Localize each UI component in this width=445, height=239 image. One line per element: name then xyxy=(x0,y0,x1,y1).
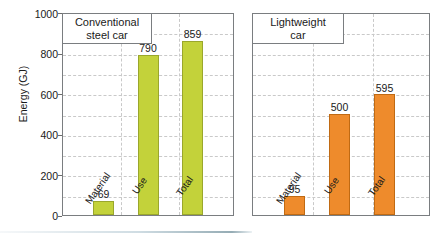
plot-area-left: 69 790 859 Material Use Total xyxy=(63,14,233,215)
panel-title-line2-right: car xyxy=(290,29,305,41)
chart-figure: Energy (GJ) 1000 800 600 400 200 0 xyxy=(0,0,445,239)
vgridline-1-left xyxy=(121,14,122,215)
panel-lightweight-car: 95 500 595 Material Use Total Lightweigh… xyxy=(252,13,430,216)
y-tick-800: 800 xyxy=(24,49,58,60)
panel-conventional-steel-car: 69 790 859 Material Use Total Convention… xyxy=(62,13,234,216)
y-tick-400: 400 xyxy=(24,130,58,141)
y-tick-200: 200 xyxy=(24,171,58,182)
panel-title-line2-left: steel car xyxy=(86,29,128,41)
y-tickmark-0 xyxy=(58,216,62,217)
bar-value-total-right: 595 xyxy=(366,83,403,94)
plot-area-right: 95 500 595 Material Use Total xyxy=(253,14,429,215)
gridline-600-right xyxy=(253,95,429,96)
bar-value-use-left: 790 xyxy=(130,43,167,54)
gridline-800-right xyxy=(253,55,429,56)
bar-total-right xyxy=(374,94,395,215)
bar-material-left xyxy=(93,201,114,215)
y-tick-0: 0 xyxy=(24,211,58,222)
y-tick-600: 600 xyxy=(24,90,58,101)
y-axis-tick-labels: 1000 800 600 400 200 0 xyxy=(20,0,58,239)
scan-artifact-line xyxy=(0,231,252,233)
y-tick-1000: 1000 xyxy=(24,9,58,20)
panel-title-conventional-steel-car: Conventional steel car xyxy=(62,13,152,44)
panel-title-line1-left: Conventional xyxy=(75,16,139,28)
bar-value-use-right: 500 xyxy=(321,102,358,113)
vgridline-1-right xyxy=(313,14,314,215)
gridline-700-right xyxy=(253,75,429,76)
panel-title-line1-right: Lightweight xyxy=(270,16,326,28)
bar-value-total-left: 859 xyxy=(174,29,211,40)
panel-title-lightweight-car: Lightweight car xyxy=(252,13,344,44)
bar-use-right xyxy=(329,114,350,216)
